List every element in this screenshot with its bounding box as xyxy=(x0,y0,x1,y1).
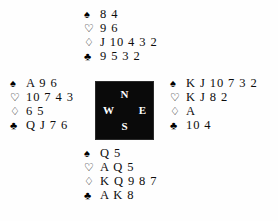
hand-west-diamond-row: ♢ 6 5 xyxy=(10,104,74,118)
spade-icon: ♠ xyxy=(10,76,22,90)
compass-label-south: S xyxy=(96,121,153,132)
hand-north-spades: 8 4 xyxy=(96,7,118,21)
hand-east-hearts: K J 8 2 xyxy=(182,90,228,104)
hand-west-clubs: Q J 7 6 xyxy=(22,118,68,132)
spade-icon: ♠ xyxy=(84,7,96,21)
hand-north-diamond-row: ♢ J 10 4 3 2 xyxy=(84,35,158,49)
hand-west-diamonds: 6 5 xyxy=(22,104,44,118)
hand-south-clubs: A K 8 xyxy=(96,188,134,202)
hand-south-club-row: ♣ A K 8 xyxy=(84,188,157,202)
diamond-icon: ♢ xyxy=(10,104,22,118)
hand-south-heart-row: ♡ A Q 5 xyxy=(84,160,157,174)
hand-west: ♠ A 9 6 ♡ 10 7 4 3 ♢ 6 5 ♣ Q J 7 6 xyxy=(10,76,74,132)
hand-east-spades: K J 10 7 3 2 xyxy=(182,76,258,90)
hand-west-spade-row: ♠ A 9 6 xyxy=(10,76,74,90)
hand-east-diamonds: A xyxy=(182,104,196,118)
hand-south: ♠ Q 5 ♡ A Q 5 ♢ K Q 9 8 7 ♣ A K 8 xyxy=(84,146,157,202)
hand-north-diamonds: J 10 4 3 2 xyxy=(96,35,158,49)
bridge-deal-diagram: ♠ 8 4 ♡ 9 6 ♢ J 10 4 3 2 ♣ 9 5 3 2 ♠ A 9… xyxy=(0,0,278,221)
hand-south-spade-row: ♠ Q 5 xyxy=(84,146,157,160)
hand-east-diamond-row: ♢ A xyxy=(170,104,258,118)
spade-icon: ♠ xyxy=(170,76,182,90)
hand-south-diamonds: K Q 9 8 7 xyxy=(96,174,157,188)
hand-east: ♠ K J 10 7 3 2 ♡ K J 8 2 ♢ A ♣ 10 4 xyxy=(170,76,258,132)
compass-box: N W E S xyxy=(96,82,153,139)
club-icon: ♣ xyxy=(84,49,96,63)
hand-west-hearts: 10 7 4 3 xyxy=(22,90,74,104)
heart-icon: ♡ xyxy=(10,90,22,104)
hand-north: ♠ 8 4 ♡ 9 6 ♢ J 10 4 3 2 ♣ 9 5 3 2 xyxy=(84,7,158,63)
club-icon: ♣ xyxy=(10,118,22,132)
hand-south-diamond-row: ♢ K Q 9 8 7 xyxy=(84,174,157,188)
hand-west-heart-row: ♡ 10 7 4 3 xyxy=(10,90,74,104)
heart-icon: ♡ xyxy=(170,90,182,104)
hand-west-club-row: ♣ Q J 7 6 xyxy=(10,118,74,132)
club-icon: ♣ xyxy=(170,118,182,132)
heart-icon: ♡ xyxy=(84,21,96,35)
hand-north-hearts: 9 6 xyxy=(96,21,118,35)
hand-west-spades: A 9 6 xyxy=(22,76,58,90)
hand-east-spade-row: ♠ K J 10 7 3 2 xyxy=(170,76,258,90)
heart-icon: ♡ xyxy=(84,160,96,174)
hand-north-spade-row: ♠ 8 4 xyxy=(84,7,158,21)
diamond-icon: ♢ xyxy=(84,35,96,49)
spade-icon: ♠ xyxy=(84,146,96,160)
hand-east-heart-row: ♡ K J 8 2 xyxy=(170,90,258,104)
hand-south-spades: Q 5 xyxy=(96,146,121,160)
hand-north-clubs: 9 5 3 2 xyxy=(96,49,141,63)
club-icon: ♣ xyxy=(84,188,96,202)
hand-north-heart-row: ♡ 9 6 xyxy=(84,21,158,35)
hand-east-club-row: ♣ 10 4 xyxy=(170,118,258,132)
diamond-icon: ♢ xyxy=(84,174,96,188)
diamond-icon: ♢ xyxy=(170,104,182,118)
hand-east-clubs: 10 4 xyxy=(182,118,211,132)
hand-south-hearts: A Q 5 xyxy=(96,160,134,174)
hand-north-club-row: ♣ 9 5 3 2 xyxy=(84,49,158,63)
